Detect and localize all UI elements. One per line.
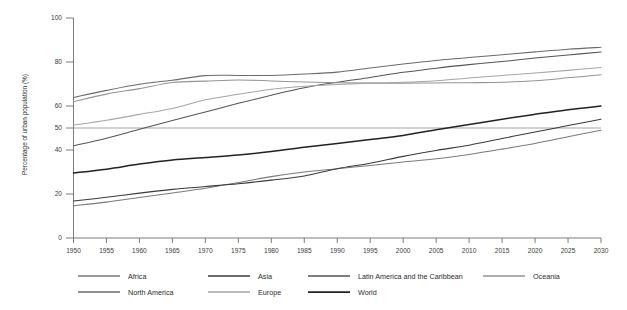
x-tick-label: 2020 [528,247,543,254]
legend-label-latin-america-and-the-caribbean: Latin America and the Caribbean [358,272,463,281]
x-tick-label: 1960 [132,247,147,254]
legend-label-oceania: Oceania [533,272,560,281]
y-tick-label: 60 [55,102,63,109]
series-line-latin-america-and-the-caribbean [74,52,602,146]
x-tick-label: 1995 [363,247,378,254]
y-tick-label: 80 [55,58,63,65]
y-tick-label: 50 [55,124,63,131]
x-tick-label: 1990 [330,247,345,254]
series-line-world [74,106,602,173]
y-axis-tick-group: 02040506080100 [51,14,74,241]
y-tick-label: 40 [55,146,63,153]
series-line-africa [74,130,602,205]
y-tick-label: 100 [51,14,62,21]
x-tick-label: 1980 [264,247,279,254]
legend-label-north-america: North America [128,288,174,297]
legend-label-europe: Europe [258,288,281,297]
legend-label-asia: Asia [258,272,272,281]
series-line-asia [74,119,602,201]
x-tick-label: 2010 [462,247,477,254]
x-tick-label: 1970 [198,247,213,254]
chart-canvas: Percentage of urban population (%) 02040… [0,0,627,310]
x-tick-label: 2000 [396,247,411,254]
x-tick-label: 1975 [231,247,246,254]
x-tick-label: 1965 [165,247,180,254]
x-tick-label: 1955 [99,247,114,254]
y-tick-label: 0 [58,234,62,241]
legend-label-world: World [358,288,377,297]
x-tick-label: 2025 [561,247,576,254]
urban-population-line-chart: Percentage of urban population (%) 02040… [0,0,627,310]
series-line-group [74,47,602,205]
chart-legend: AfricaAsiaLatin America and the Caribbea… [78,272,560,297]
y-axis-title-group: Percentage of urban population (%) [21,74,29,175]
x-tick-label: 2015 [495,247,510,254]
series-line-north-america [74,47,602,97]
y-axis-title: Percentage of urban population (%) [21,74,29,175]
x-tick-label: 1950 [66,247,81,254]
y-tick-label: 20 [55,190,63,197]
legend-label-africa: Africa [128,272,146,281]
x-tick-label: 2005 [429,247,444,254]
x-tick-label: 2030 [594,247,609,254]
x-tick-label: 1985 [297,247,312,254]
x-axis-tick-group: 1950195519601965197019751980198519901995… [66,238,609,254]
series-line-oceania [74,75,602,102]
